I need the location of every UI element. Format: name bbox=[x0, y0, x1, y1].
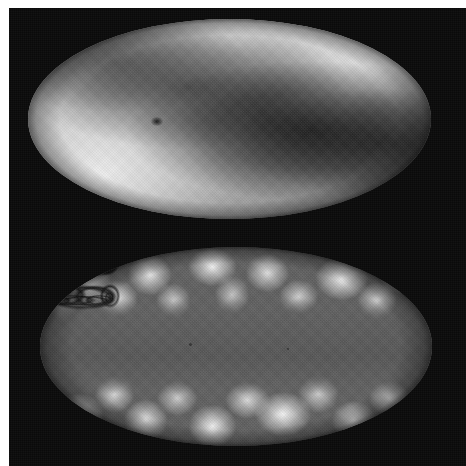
upper-dark-secondary-band bbox=[28, 19, 431, 219]
figure-plate bbox=[9, 8, 466, 466]
band-speck-left bbox=[189, 343, 192, 346]
lower-sky-map bbox=[40, 247, 432, 446]
compact-dark-point-source bbox=[151, 117, 163, 126]
upper-sky-map bbox=[28, 19, 431, 219]
all-sky-figure bbox=[0, 0, 466, 466]
equatorial-band-tint bbox=[40, 247, 432, 446]
